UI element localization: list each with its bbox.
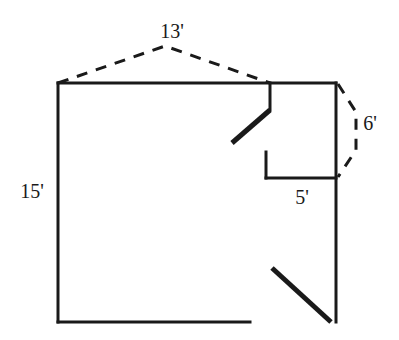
dimension-arc-group <box>58 46 356 177</box>
dimension-label-right-segment: 6' <box>363 112 377 134</box>
lower-door-swing <box>272 268 331 322</box>
door-swing-group <box>232 110 331 322</box>
dimension-label-group: 13' 15' 5' 6' <box>20 20 377 208</box>
dimension-label-alcove-width: 5' <box>295 186 309 208</box>
floor-plan-canvas: 13' 15' 5' 6' <box>0 0 399 340</box>
upper-door-swing <box>232 110 270 143</box>
right-segment-arc <box>338 84 356 177</box>
dimension-label-top-width: 13' <box>160 20 184 42</box>
floor-plan-diagram: 13' 15' 5' 6' <box>0 0 399 340</box>
top-width-arc <box>58 46 270 83</box>
dimension-label-left-height: 15' <box>20 180 44 202</box>
